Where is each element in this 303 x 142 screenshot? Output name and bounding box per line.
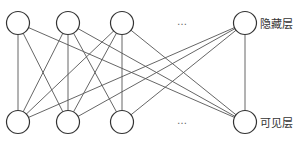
hidden-node-h5 — [234, 12, 257, 35]
visible-layer-label: 可见层 — [260, 117, 293, 130]
visible-node-v5 — [234, 111, 257, 134]
hidden-layer-label: 隐藏层 — [260, 18, 293, 31]
hidden-node-h1 — [7, 12, 30, 35]
edge-h3-v1 — [18, 23, 122, 122]
visible-node-v1 — [7, 111, 30, 134]
visible-node-v2 — [57, 111, 80, 134]
connection-edges — [18, 23, 245, 122]
rbm-diagram: … … 隐藏层 可见层 — [0, 0, 303, 142]
hidden-node-h2 — [57, 12, 80, 35]
hidden-layer-ellipsis: … — [177, 16, 187, 27]
hidden-node-h3 — [111, 12, 134, 35]
visible-layer-ellipsis: … — [177, 115, 187, 126]
visible-node-v3 — [111, 111, 134, 134]
